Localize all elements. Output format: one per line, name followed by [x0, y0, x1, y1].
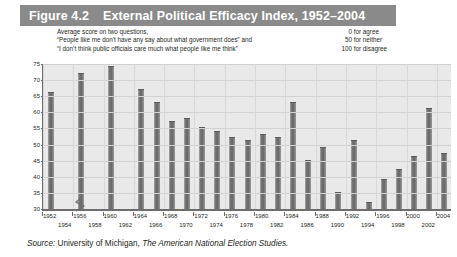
x-axis-tick-label: 1982 — [270, 222, 283, 228]
scale-entry: 50 for neither — [328, 36, 392, 44]
source-note: Source: University of Michigan, The Amer… — [27, 239, 288, 248]
x-axis-tick-label: 1974 — [210, 222, 223, 228]
x-axis-tick-label: 1954 — [58, 222, 71, 228]
x-axis-tick-label: 1962 — [119, 222, 132, 228]
bar — [138, 89, 144, 209]
column-separator — [104, 64, 105, 209]
figure-banner: Figure 4.2 External Political Efficacy I… — [20, 5, 396, 26]
x-axis-line — [42, 209, 451, 211]
bar — [305, 160, 311, 209]
x-axis-tick-label: 1958 — [88, 222, 101, 228]
column-separator — [316, 64, 317, 209]
column-separator — [437, 64, 438, 209]
x-axis-tick-label: 1978 — [240, 222, 253, 228]
scale-value: 50 — [334, 36, 352, 44]
y-axis-tick-label: 55 — [33, 125, 40, 131]
column-separator — [43, 64, 44, 209]
chart-area: Average score 30354045505560657075 19521… — [6, 62, 454, 234]
scale-entry: 100 for disagree — [328, 45, 392, 53]
x-axis-tick-label: 1970 — [179, 222, 192, 228]
x-axis-tick-label: 1956 — [73, 213, 86, 219]
x-axis-tick-label: 1972 — [194, 213, 207, 219]
x-axis-tick-label: 1984 — [285, 213, 298, 219]
x-axis-tick-label: 1968 — [164, 213, 177, 219]
x-axis-tick-label: 1994 — [361, 222, 374, 228]
x-axis-tick-label: 1988 — [316, 213, 329, 219]
scale-label: for neither — [354, 36, 382, 43]
caption-line: Average score on two questions, — [57, 28, 148, 36]
column-separator — [255, 64, 256, 209]
x-axis-tick-label: 1992 — [346, 213, 359, 219]
y-axis-tick-label: 35 — [33, 190, 40, 196]
caption-row: “I don’t think public officials care muc… — [57, 45, 392, 53]
scale-label: for agree — [354, 28, 379, 35]
x-axis-tick-label: 2000 — [406, 213, 419, 219]
x-axis-tick-label: 1976 — [225, 213, 238, 219]
x-axis-tick-label: 1998 — [391, 222, 404, 228]
y-axis-tick-label: 65 — [33, 93, 40, 99]
y-axis-tick-label: 75 — [33, 61, 40, 67]
y-axis-tick-label: 40 — [33, 174, 40, 180]
figure-caption: Average score on two questions, 0 for ag… — [57, 28, 392, 53]
scale-value: 100 — [334, 45, 352, 53]
y-axis-tick-label: 60 — [33, 109, 40, 115]
bar — [366, 202, 372, 209]
column-separator — [376, 64, 377, 209]
column-separator — [346, 64, 347, 209]
bar — [411, 156, 417, 209]
bar — [396, 169, 402, 209]
bar — [351, 140, 357, 209]
bar — [320, 147, 326, 209]
x-axis-tick-label: 1966 — [149, 222, 162, 228]
x-axis-labels: 1952195419561958196019621964196619681970… — [42, 212, 451, 236]
scale-entry: 0 for agree — [328, 28, 392, 36]
x-axis-tick-label: 2002 — [422, 222, 435, 228]
scale-label: for disagree — [354, 45, 387, 52]
bar — [48, 92, 54, 209]
caption-row: Average score on two questions, 0 for ag… — [57, 28, 392, 36]
bar — [335, 192, 341, 209]
x-axis-tick-label: 2004 — [437, 213, 450, 219]
y-axis-tick-label: 70 — [33, 77, 40, 83]
caption-line: “People like me don’t have any say about… — [57, 36, 252, 44]
column-separator — [73, 64, 74, 209]
source-lead: Source: — [27, 239, 55, 248]
scale-value: 0 — [334, 28, 352, 36]
column-separator — [225, 64, 226, 209]
column-separator — [285, 64, 286, 209]
y-axis-tick-label: 50 — [33, 142, 40, 148]
caption-line: “I don’t think public officials care muc… — [57, 45, 238, 53]
source-text: University of Michigan, — [55, 239, 142, 248]
figure-number: Figure 4.2 — [20, 9, 89, 23]
y-axis-tick-label: 30 — [33, 206, 40, 212]
bar — [245, 140, 251, 209]
x-axis-tick-label: 1952 — [43, 213, 56, 219]
x-axis-tick-label: 1986 — [300, 222, 313, 228]
x-axis-tick-label: 1960 — [103, 213, 116, 219]
column-separator — [194, 64, 195, 209]
figure-title: External Political Efficacy Index, 1952–… — [89, 9, 365, 23]
x-axis-tick-label: 1964 — [134, 213, 147, 219]
plot-region: 30354045505560657075 — [42, 64, 451, 209]
bar — [108, 66, 114, 209]
bar — [78, 73, 84, 209]
y-axis-tick-label: 45 — [33, 158, 40, 164]
bar — [199, 127, 205, 209]
bar — [229, 137, 235, 209]
bar — [381, 179, 387, 209]
column-separator — [164, 64, 165, 209]
source-italic: The American National Election Studies. — [142, 239, 288, 248]
bar — [184, 118, 190, 209]
column-separator — [407, 64, 408, 209]
column-separator — [134, 64, 135, 209]
x-axis-tick-label: 1996 — [376, 213, 389, 219]
caption-row: “People like me don’t have any say about… — [57, 36, 392, 44]
bar — [169, 121, 175, 209]
x-axis-tick-label: 1980 — [255, 213, 268, 219]
x-axis-tick-label: 1990 — [331, 222, 344, 228]
bar — [275, 137, 281, 209]
bar — [214, 131, 220, 209]
